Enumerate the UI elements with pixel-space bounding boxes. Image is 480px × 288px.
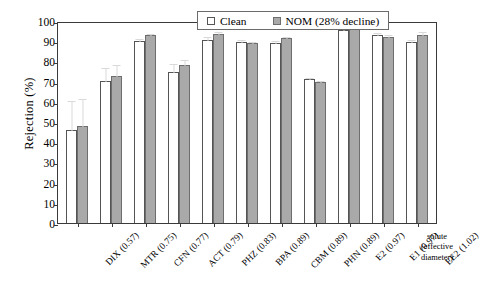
error-bar — [411, 40, 412, 43]
legend-swatch-nom-icon — [273, 17, 281, 25]
y-tick-label: 50 — [29, 118, 55, 130]
bar-group — [332, 23, 366, 223]
y-tick-label: 80 — [29, 58, 55, 70]
bar-clean — [168, 72, 179, 224]
chart-legend: Clean NOM (28% decline) — [197, 11, 389, 30]
bar-clean — [270, 43, 281, 223]
error-bar — [377, 33, 378, 36]
y-tick-label: 0 — [29, 219, 55, 231]
error-bar — [309, 78, 310, 80]
y-tick-label: 60 — [29, 98, 55, 110]
y-tick-mark — [54, 104, 58, 105]
error-bar — [388, 35, 389, 38]
bar-clean — [202, 40, 213, 223]
y-tick-mark — [54, 63, 58, 64]
y-tick-label: 70 — [29, 78, 55, 90]
plot-area: 0102030405060708090100 — [57, 22, 437, 224]
y-tick-label: 10 — [29, 199, 55, 211]
y-tick-mark — [54, 43, 58, 44]
y-tick-mark — [54, 124, 58, 125]
error-bar — [139, 39, 140, 42]
error-bar — [422, 32, 423, 36]
bar-group — [162, 23, 196, 223]
bar-clean — [338, 30, 349, 223]
bar-nom — [213, 34, 224, 223]
bar-group — [60, 23, 94, 223]
y-tick-label: 30 — [29, 159, 55, 171]
bar-clean — [304, 79, 315, 223]
error-bar — [275, 41, 276, 44]
solute-line-2: (effective — [408, 242, 466, 252]
error-bar — [241, 40, 242, 43]
x-tick-label: MTR (0.75) — [139, 230, 179, 270]
legend-label-clean: Clean — [220, 15, 247, 27]
bar-group — [264, 23, 298, 223]
bar-groups — [58, 23, 436, 223]
y-axis-title: Rejection (%) — [22, 24, 37, 204]
x-tick-label: BPA (0.89) — [274, 230, 311, 267]
bar-group — [400, 23, 434, 223]
bar-nom — [417, 35, 428, 223]
bar-group — [366, 23, 400, 223]
bar-nom — [145, 35, 156, 223]
legend-label-nom: NOM (28% decline) — [286, 15, 380, 27]
error-bar — [320, 81, 321, 83]
x-tick-label: CBM (0.89) — [309, 230, 349, 270]
bar-nom — [77, 126, 88, 223]
y-tick-label: 100 — [29, 17, 55, 29]
legend-item-clean: Clean — [207, 15, 247, 27]
bar-nom — [247, 43, 258, 223]
error-bar — [184, 60, 185, 66]
bar-group — [230, 23, 264, 223]
bar-clean — [236, 42, 247, 223]
y-tick-mark — [54, 84, 58, 85]
bar-group — [298, 23, 332, 223]
error-bar — [82, 99, 83, 127]
bar-group — [94, 23, 128, 223]
error-bar — [252, 42, 253, 44]
bar-clean — [134, 41, 145, 223]
error-bar — [116, 65, 117, 76]
error-bar — [71, 101, 72, 131]
y-tick-mark — [54, 23, 58, 24]
x-tick-label: PHZ (0.83) — [240, 230, 278, 268]
x-axis-title: solute (effective diameter) — [408, 232, 466, 263]
y-tick-label: 20 — [29, 179, 55, 191]
x-tick-label: DIX (0.57) — [103, 230, 140, 267]
bar-group — [196, 23, 230, 223]
legend-item-nom: NOM (28% decline) — [273, 15, 380, 27]
solute-line-1: solute — [408, 232, 466, 242]
x-tick-label: ACT (0.79) — [206, 230, 245, 269]
bar-clean — [100, 81, 111, 223]
legend-swatch-clean-icon — [207, 17, 215, 25]
error-bar — [207, 37, 208, 41]
x-axis-labels: DIX (0.57)MTR (0.75)CFN (0.77)ACT (0.79)… — [57, 224, 437, 284]
bar-clean — [406, 42, 417, 223]
bar-nom — [179, 65, 190, 223]
y-tick-mark — [54, 205, 58, 206]
bar-clean — [372, 35, 383, 223]
y-tick-label: 90 — [29, 37, 55, 49]
error-bar — [150, 34, 151, 36]
error-bar — [218, 32, 219, 35]
error-bar — [286, 37, 287, 39]
bar-nom — [383, 37, 394, 223]
solute-line-3: diameter) — [408, 253, 466, 263]
bar-nom — [111, 76, 122, 223]
y-tick-mark — [54, 144, 58, 145]
error-bar — [173, 64, 174, 72]
bar-nom — [315, 82, 326, 223]
bar-nom — [349, 28, 360, 223]
bar-clean — [66, 130, 77, 223]
bar-nom — [281, 38, 292, 223]
y-tick-mark — [54, 185, 58, 186]
error-bar — [105, 68, 106, 81]
y-tick-label: 40 — [29, 138, 55, 150]
y-tick-mark — [54, 164, 58, 165]
bar-group — [128, 23, 162, 223]
